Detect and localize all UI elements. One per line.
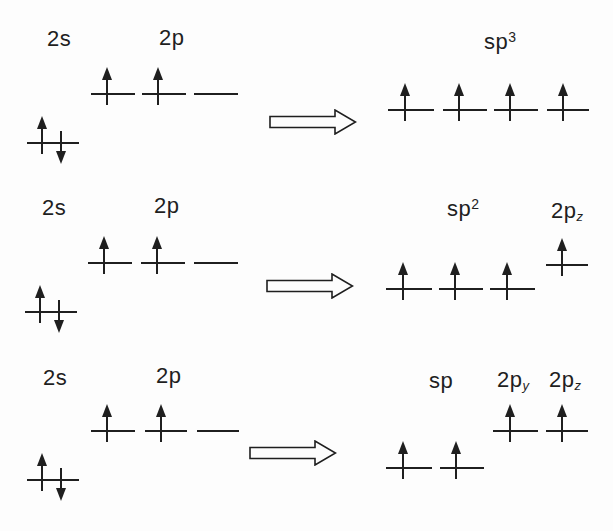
- electron-up-arrow: [450, 262, 460, 300]
- orbital-line-row3-2p-2: [145, 430, 187, 432]
- label-superscript: 2: [471, 196, 479, 212]
- label-2s-row3: 2s: [43, 366, 67, 390]
- label-text: 2p: [156, 363, 181, 388]
- orbital-line-row2-2p-2: [141, 262, 185, 264]
- label-subscript: z: [574, 378, 581, 393]
- label-text: 2s: [42, 195, 66, 220]
- label-text: 2s: [43, 365, 67, 390]
- electron-up-arrow: [400, 83, 410, 121]
- orbital-line-row1-sp3-4: [547, 109, 589, 111]
- orbital-line-row2-sp2-1: [386, 288, 432, 290]
- orbital-line-row1-2p-1: [91, 93, 135, 95]
- electron-down-arrow: [56, 131, 66, 164]
- electron-up-arrow: [505, 404, 515, 442]
- label-text: sp: [484, 29, 508, 54]
- electron-up-arrow: [37, 453, 47, 491]
- label-subscript: y: [522, 378, 529, 393]
- label-superscript: 3: [508, 29, 516, 45]
- orbital-line-row1-2p-2: [142, 93, 186, 95]
- label-2p-row1: 2p: [159, 26, 184, 50]
- orbital-line-row2-2p-1: [88, 262, 132, 264]
- label-text: 2p: [549, 367, 574, 392]
- label-sp2: sp2: [447, 197, 479, 221]
- electron-up-arrow: [102, 404, 112, 442]
- transformation-arrow-row2: [266, 273, 354, 299]
- orbital-line-row3-sp-1: [386, 467, 432, 469]
- label-sp: sp: [429, 369, 453, 393]
- label-text: sp: [429, 368, 453, 393]
- orbital-line-row2-2s: [25, 311, 77, 313]
- electron-down-arrow: [56, 468, 66, 501]
- label-text: 2p: [159, 25, 184, 50]
- label-text: 2p: [154, 193, 179, 218]
- orbital-line-row1-sp3-3: [494, 109, 538, 111]
- label-2s-row2: 2s: [42, 196, 66, 220]
- label-2pz-row3: 2pz: [549, 368, 581, 392]
- label-text: 2p: [551, 198, 576, 223]
- transformation-arrow-row3: [249, 440, 337, 466]
- label-2p-row2: 2p: [154, 194, 179, 218]
- electron-up-arrow: [35, 285, 45, 323]
- orbital-line-row2-sp2-3: [490, 288, 535, 290]
- electron-up-arrow: [153, 67, 163, 105]
- electron-up-arrow: [152, 236, 162, 274]
- label-2s-row1: 2s: [47, 27, 71, 51]
- electron-down-arrow: [54, 300, 64, 333]
- orbital-line-row2-2p-3: [194, 262, 238, 264]
- orbital-line-row2-sp2-2: [439, 288, 483, 290]
- label-text: 2s: [47, 26, 71, 51]
- orbital-line-row3-2py: [493, 430, 538, 432]
- label-sp3: sp3: [484, 30, 516, 54]
- orbital-line-row3-2pz: [546, 430, 588, 432]
- electron-up-arrow: [502, 262, 512, 300]
- label-text: 2p: [497, 367, 522, 392]
- orbital-line-row3-2s: [27, 479, 79, 481]
- electron-up-arrow: [102, 67, 112, 105]
- electron-up-arrow: [398, 441, 408, 479]
- electron-up-arrow: [505, 83, 515, 121]
- label-2py-row3: 2py: [497, 368, 529, 392]
- orbital-line-row3-2p-1: [91, 430, 135, 432]
- label-text: sp: [447, 196, 471, 221]
- orbital-line-row1-2s: [27, 142, 79, 144]
- orbital-line-row1-sp3-2: [443, 109, 487, 111]
- hybridization-diagram: 2s 2p sp3 2s 2p sp2 2pz 2s 2p sp 2py 2pz: [0, 0, 613, 531]
- electron-up-arrow: [557, 404, 567, 442]
- orbital-line-row1-2p-3: [194, 93, 238, 95]
- label-2pz-row2: 2pz: [551, 199, 583, 223]
- orbital-line-row2-2pz: [546, 264, 588, 266]
- electron-up-arrow: [558, 83, 568, 121]
- electron-up-arrow: [451, 441, 461, 479]
- label-2p-row3: 2p: [156, 364, 181, 388]
- orbital-line-row3-2p-3: [197, 430, 239, 432]
- electron-up-arrow: [557, 238, 567, 276]
- electron-up-arrow: [99, 236, 109, 274]
- electron-up-arrow: [398, 262, 408, 300]
- orbital-line-row1-sp3-1: [388, 109, 434, 111]
- transformation-arrow-row1: [269, 109, 357, 135]
- orbital-line-row3-sp-2: [440, 467, 484, 469]
- electron-up-arrow: [156, 404, 166, 442]
- electron-up-arrow: [37, 116, 47, 154]
- label-subscript: z: [576, 209, 583, 224]
- electron-up-arrow: [454, 83, 464, 121]
